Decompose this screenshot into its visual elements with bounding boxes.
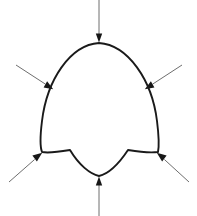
reuleaux-triangle-diagram	[0, 0, 197, 216]
figure-container	[0, 0, 197, 216]
